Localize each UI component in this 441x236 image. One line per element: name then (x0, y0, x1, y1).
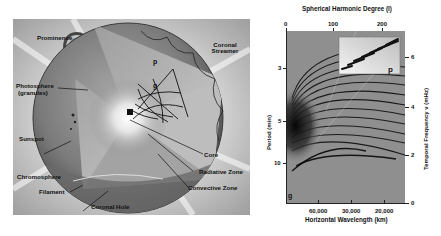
sun-cutaway-diagram: Prominence Coronal Streamer Photosphere … (13, 19, 250, 215)
top-tick-mark (382, 28, 383, 31)
top-tick-200: 200 (377, 21, 387, 27)
right-axis-title: Temporal Frequency ν (mHz) (423, 88, 429, 170)
right-tick-4: 4 (411, 104, 414, 110)
left-axis-title: Period (min) (266, 115, 272, 150)
right-tick-mark (405, 155, 409, 156)
left-tick-10: 10 (274, 160, 281, 166)
left-tick-mark (283, 68, 286, 69)
power-spectrum-plot: p g (286, 31, 405, 203)
right-tick-mark (405, 203, 409, 204)
left-tick-5: 5 (278, 118, 281, 124)
bottom-tick-mark (318, 200, 319, 203)
label-prominence: Prominence (37, 35, 72, 41)
bottom-axis-line (286, 203, 406, 204)
label-convective-zone: Convective Zone (188, 185, 238, 191)
right-tick-mark (405, 107, 409, 108)
label-g-mode: g (153, 82, 157, 89)
label-coronal-hole: Coronal Hole (91, 204, 130, 210)
bottom-tick-60000: 60,000 (309, 208, 327, 214)
bottom-tick-30000: 30,000 (342, 208, 360, 214)
left-tick-mark (283, 163, 286, 164)
top-axis-title: Spherical Harmonic Degree (l) (302, 6, 392, 12)
label-coronal-streamer: Coronal Streamer (205, 42, 245, 54)
left-tick-mark (283, 121, 286, 122)
inset-label-p: p (388, 66, 393, 74)
label-filament: Filament (39, 189, 64, 195)
bottom-axis-title: Horizontal Wavelength (km) (305, 217, 388, 223)
label-photosphere-granules: (granules) (18, 90, 48, 96)
top-tick-100: 100 (328, 21, 338, 27)
top-tick-mark (333, 28, 334, 31)
label-core: Core (204, 152, 218, 158)
panel-label-g: g (288, 192, 292, 199)
label-coronal-streamer-text: Coronal Streamer (205, 42, 245, 54)
label-radiative-zone: Radiative Zone (199, 169, 243, 175)
label-chromosphere: Chromosphere (17, 174, 61, 180)
bottom-tick-mark (351, 200, 352, 203)
bottom-tick-mark (384, 200, 385, 203)
label-p-mode: p (153, 58, 157, 65)
left-axis-line (286, 31, 287, 204)
right-tick-6: 6 (411, 54, 414, 60)
right-tick-mark (405, 57, 409, 58)
label-sunspot: Sunspot (19, 136, 44, 142)
right-tick-2: 2 (411, 152, 414, 158)
ridge-plot (286, 31, 405, 203)
top-tick-0: 0 (284, 21, 287, 27)
top-tick-mark (286, 28, 287, 31)
bottom-tick-20000: 20,000 (375, 208, 393, 214)
right-tick-0: 0 (411, 200, 414, 206)
left-tick-3: 3 (278, 65, 281, 71)
